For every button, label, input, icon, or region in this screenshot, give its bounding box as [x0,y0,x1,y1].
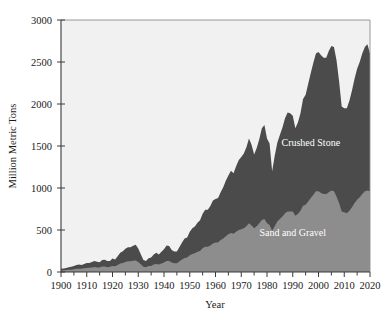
x-axis: 1900191019201930194019501960197019801990… [51,272,381,291]
x-tick-label: 1940 [154,280,175,291]
x-tick-label: 1910 [76,280,97,291]
x-tick-label: 1930 [128,280,149,291]
x-tick-label: 1990 [282,280,303,291]
x-tick-label: 1960 [205,280,226,291]
series-label-crushed-stone: Crushed Stone [281,137,340,148]
stacked-area-chart: 050010001500200025003000 190019101920193… [0,0,392,315]
y-tick-label: 1000 [31,183,52,194]
y-tick-label: 500 [36,225,52,236]
x-axis-title: Year [205,299,225,310]
y-tick-label: 2000 [31,99,52,110]
x-tick-label: 2020 [360,280,381,291]
y-tick-label: 3000 [31,15,52,26]
x-tick-label: 2000 [308,280,329,291]
x-tick-label: 1920 [102,280,123,291]
series-label-sand-and-gravel: Sand and Gravel [259,227,326,238]
x-tick-label: 1950 [179,280,200,291]
y-tick-label: 2500 [31,57,52,68]
x-tick-label: 1980 [257,280,278,291]
x-tick-label: 1970 [231,280,252,291]
y-axis-title: Million Metric Tons [7,104,18,189]
y-axis: 050010001500200025003000 [31,15,65,278]
y-tick-label: 0 [47,267,52,278]
x-tick-label: 1900 [51,280,72,291]
x-tick-label: 2010 [334,280,355,291]
chart-container: 050010001500200025003000 190019101920193… [0,0,392,315]
y-tick-label: 1500 [31,141,52,152]
